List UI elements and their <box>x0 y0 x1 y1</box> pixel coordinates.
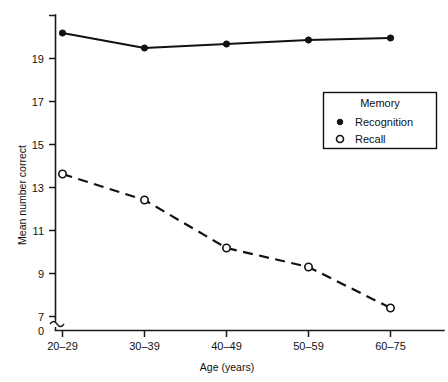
series-recall <box>59 170 394 311</box>
y-tick-group: 19 17 15 13 11 9 7 0 <box>32 16 56 337</box>
series-recognition <box>59 30 393 51</box>
recognition-point-20-29 <box>59 30 65 36</box>
y-tick-label-0: 0 <box>38 325 44 337</box>
recall-point-50-59 <box>305 263 312 270</box>
x-tick-group: 20–29 30–39 40–49 50–59 60–75 <box>47 331 406 353</box>
x-tick-label-50-59: 50–59 <box>293 340 324 352</box>
y-axis-title: Mean number correct <box>16 145 28 245</box>
filled-circle-icon <box>337 119 343 125</box>
recall-point-30-39 <box>141 196 148 203</box>
legend: Memory Recognition Recall <box>324 93 437 149</box>
recognition-point-30-39 <box>141 45 147 51</box>
x-tick-label-40-49: 40–49 <box>211 340 242 352</box>
chart-container: 19 17 15 13 11 9 7 0 20–29 30–39 40–49 <box>0 0 448 382</box>
axis-break-icon <box>50 322 64 327</box>
y-tick-label-13: 13 <box>32 182 44 194</box>
y-tick-label-15: 15 <box>32 139 44 151</box>
x-axis-title: Age (years) <box>200 361 254 373</box>
recognition-point-50-59 <box>305 37 311 43</box>
recall-point-60-75 <box>387 304 394 311</box>
recall-point-40-49 <box>223 244 230 251</box>
x-tick-label-20-29: 20–29 <box>47 340 78 352</box>
recognition-point-60-75 <box>387 35 393 41</box>
recall-line <box>63 174 391 308</box>
open-circle-icon <box>337 136 344 143</box>
recognition-point-40-49 <box>223 41 229 47</box>
legend-entry-recognition: Recognition <box>355 116 413 128</box>
y-tick-label-11: 11 <box>33 225 44 237</box>
x-tick-label-30-39: 30–39 <box>129 340 160 352</box>
x-tick-label-60-75: 60–75 <box>375 340 406 352</box>
y-tick-label-9: 9 <box>38 268 44 280</box>
line-chart: 19 17 15 13 11 9 7 0 20–29 30–39 40–49 <box>0 0 448 382</box>
y-tick-label-17: 17 <box>32 96 44 108</box>
legend-entry-recall: Recall <box>355 133 386 145</box>
legend-title: Memory <box>360 97 400 109</box>
recall-point-20-29 <box>59 170 66 177</box>
axis-group <box>50 15 444 331</box>
y-tick-label-7: 7 <box>38 311 44 323</box>
y-tick-label-19: 19 <box>32 53 44 65</box>
